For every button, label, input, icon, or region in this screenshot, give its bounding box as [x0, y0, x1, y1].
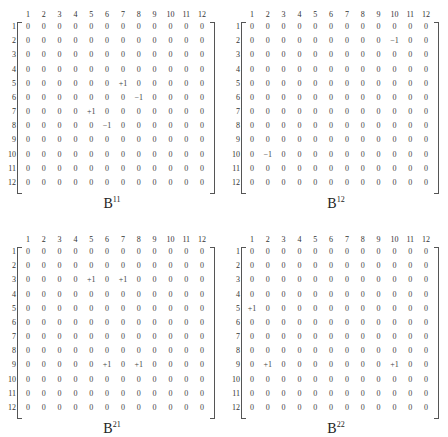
matrix-cell: 0: [121, 290, 125, 299]
matrix-cell: 0: [424, 318, 428, 327]
row-header: 9: [12, 360, 16, 369]
matrix-cell: 0: [168, 22, 172, 31]
matrix-cell: 0: [89, 261, 93, 270]
matrix-cell: 0: [250, 135, 254, 144]
matrix-cell: 0: [137, 164, 141, 173]
matrix-cell: 0: [361, 290, 365, 299]
matrix-cell: 0: [282, 50, 286, 59]
matrix-cell: 0: [153, 403, 157, 412]
matrix-cell: 0: [73, 65, 77, 74]
column-header: 8: [137, 235, 141, 244]
matrix-cell: 0: [184, 403, 188, 412]
matrix-cell: 0: [250, 318, 254, 327]
matrix-cell: 0: [392, 50, 396, 59]
matrix-cell: 0: [313, 135, 317, 144]
matrix-cell: 0: [266, 275, 270, 284]
matrix-cell: 0: [329, 318, 333, 327]
matrix-cell: 0: [250, 65, 254, 74]
column-header: 7: [345, 235, 349, 244]
matrix-cell: 0: [313, 150, 317, 159]
column-header: 9: [153, 10, 157, 19]
matrix-cell: 0: [377, 178, 381, 187]
matrix-cell: 0: [345, 389, 349, 398]
matrix-cell: 0: [345, 275, 349, 284]
row-header: 12: [232, 403, 240, 412]
row-header: 1: [12, 247, 16, 256]
matrix-cell: 0: [266, 318, 270, 327]
matrix-cell: 0: [42, 389, 46, 398]
matrix-cell: 0: [153, 65, 157, 74]
matrix-cell: 0: [282, 389, 286, 398]
row-header: 1: [236, 22, 240, 31]
matrix-cell: 0: [42, 93, 46, 102]
matrix-cell: 0: [200, 178, 204, 187]
matrix-cell: 0: [89, 22, 93, 31]
matrix-cell: 0: [297, 389, 301, 398]
column-header: 11: [406, 235, 414, 244]
matrix-cell: 0: [313, 36, 317, 45]
matrix-cell: 0: [184, 261, 188, 270]
matrix-cell: 0: [297, 107, 301, 116]
matrix-cell: 0: [297, 79, 301, 88]
matrix-cell: 0: [200, 50, 204, 59]
matrix-cell: 0: [313, 275, 317, 284]
matrix-cell: 0: [89, 178, 93, 187]
matrix-cell: 0: [58, 290, 62, 299]
matrix-cell: 0: [297, 375, 301, 384]
matrix-cell: 0: [200, 304, 204, 313]
matrix-cell: 0: [153, 290, 157, 299]
matrix-cell: 0: [345, 36, 349, 45]
matrix-cell: 0: [58, 375, 62, 384]
matrix-b12-panel: 1234567891011121234567891011120000000000…: [224, 0, 448, 212]
matrix-cell: 0: [105, 389, 109, 398]
matrix-cell: 0: [250, 36, 254, 45]
matrix-cell: 0: [168, 346, 172, 355]
matrix-cell: 0: [329, 403, 333, 412]
matrix-cell: 0: [282, 164, 286, 173]
row-header: 4: [236, 65, 240, 74]
matrix-cell: 0: [73, 290, 77, 299]
matrix-cell: 0: [42, 65, 46, 74]
matrix-cell: 0: [121, 389, 125, 398]
matrix-cell: 0: [89, 346, 93, 355]
matrix-cell: 0: [282, 290, 286, 299]
column-headers: 123456789101112: [20, 10, 216, 20]
matrix-cell: 0: [392, 290, 396, 299]
matrix-cell: 0: [408, 247, 412, 256]
matrix-cell: 0: [408, 332, 412, 341]
matrix-cell: 0: [184, 318, 188, 327]
matrix-cell: 0: [392, 389, 396, 398]
matrix-cell: 0: [313, 164, 317, 173]
row-header: 2: [236, 36, 240, 45]
matrix-cell: 0: [424, 50, 428, 59]
matrix-cell: 0: [168, 318, 172, 327]
matrix-cell: 0: [200, 318, 204, 327]
matrix-cell: 0: [329, 275, 333, 284]
matrix-cell: 0: [73, 304, 77, 313]
column-header: 2: [42, 10, 46, 19]
column-header: 8: [361, 10, 365, 19]
matrix-b11-panel: 1234567891011121234567891011120000000000…: [0, 0, 224, 212]
matrix-cell: 0: [200, 121, 204, 130]
matrix-cell: 0: [153, 164, 157, 173]
matrix-cell: 0: [153, 150, 157, 159]
matrix-cells: 0000000000000000000000000000000000000000…: [244, 247, 434, 417]
matrix-cell: 0: [377, 150, 381, 159]
matrix-label-superscript: 11: [113, 195, 121, 204]
row-header: 5: [12, 79, 16, 88]
matrix-cell: 0: [392, 121, 396, 130]
matrix-cell: 0: [345, 247, 349, 256]
matrix-cell: 0: [424, 389, 428, 398]
matrix-label-base: B: [327, 421, 336, 436]
matrix-cell: 0: [184, 360, 188, 369]
matrix-cell: 0: [361, 318, 365, 327]
matrix-cell: 0: [105, 247, 109, 256]
matrix-cell: 0: [200, 261, 204, 270]
column-header: 4: [73, 10, 77, 19]
row-header: 12: [8, 403, 16, 412]
matrix-cell: 0: [329, 93, 333, 102]
matrix-cell: 0: [26, 121, 30, 130]
matrix-cell: 0: [121, 360, 125, 369]
matrix-cell: 0: [345, 107, 349, 116]
matrix-cell: 0: [345, 304, 349, 313]
